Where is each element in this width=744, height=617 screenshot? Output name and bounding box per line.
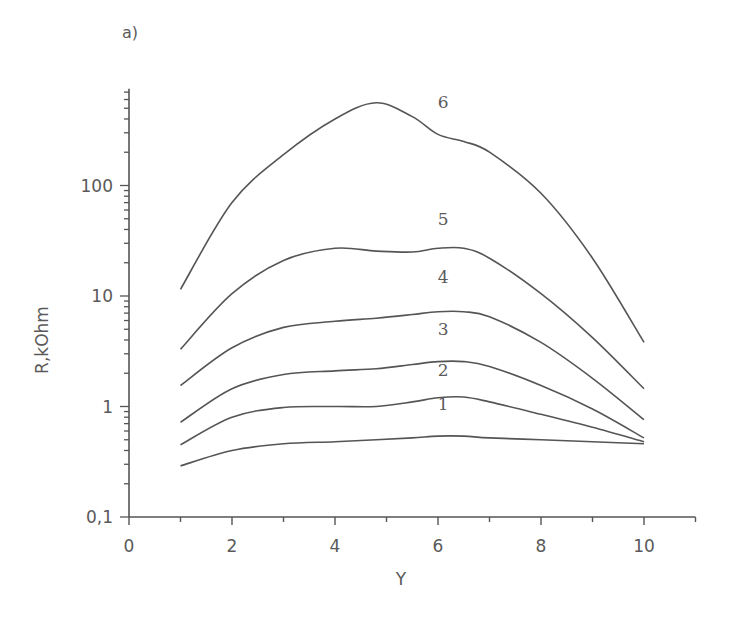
x-tick-label: 6 [433,536,444,556]
curves [181,103,645,466]
panel-label: a) [122,23,138,42]
x-tick-label: 4 [330,536,341,556]
curve-labels: 123456 [438,92,449,414]
curve-5 [181,247,645,388]
curve-1 [181,436,645,466]
chart: a) 02468100,1110100 123456 Y R,kOhm [0,0,744,617]
x-tick-label: 2 [227,536,238,556]
curve-label-5: 5 [438,209,449,229]
curve-label-2: 2 [438,360,449,380]
x-tick-label: 0 [124,536,135,556]
y-tick-label: 10 [91,286,113,306]
curve-label-6: 6 [438,92,449,112]
y-tick-label: 100 [81,176,113,196]
curve-4 [181,311,645,419]
y-tick-label: 1 [102,397,113,417]
curve-label-4: 4 [438,267,449,287]
x-axis-title: Y [395,569,407,589]
curve-label-1: 1 [438,394,449,414]
curve-6 [181,103,645,343]
y-tick-label: 0,1 [86,507,113,527]
y-axis-title: R,kOhm [32,306,52,374]
x-tick-label: 10 [633,536,655,556]
x-tick-label: 8 [536,536,547,556]
curve-label-3: 3 [438,319,449,339]
curve-3 [181,361,645,438]
axes: 02468100,1110100 [81,89,696,556]
